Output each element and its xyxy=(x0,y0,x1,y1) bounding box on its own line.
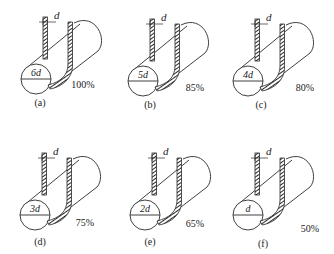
rope-left-strand xyxy=(150,19,155,61)
rope-right-strand xyxy=(260,24,285,91)
rope-bending-diagram: d6d100%(a) d5d85%(b) xyxy=(0,0,334,254)
rope-right-strand xyxy=(48,22,73,89)
rope-diameter-label: d xyxy=(53,145,59,157)
panel-caption-b: (b) xyxy=(144,99,156,111)
rope-right-strand xyxy=(47,158,72,225)
rope-diameter-label: d xyxy=(163,145,169,157)
cylinder-diameter-label: 6d xyxy=(31,67,42,78)
rope-left-strand xyxy=(42,153,47,195)
cylinder-diameter-label: 2d xyxy=(140,203,151,214)
rope-diameter-label: d xyxy=(54,9,60,21)
efficiency-label-b: 85% xyxy=(186,82,204,93)
efficiency-label-f: 50% xyxy=(301,223,319,234)
panel-caption-e: (e) xyxy=(144,236,155,248)
panel-f: dd xyxy=(233,145,314,230)
efficiency-label-e: 65% xyxy=(186,218,204,229)
rope-right-strand xyxy=(260,158,285,225)
rope-diameter-label: d xyxy=(161,11,167,23)
rope-left-strand xyxy=(152,153,157,195)
rope-diameter-label: d xyxy=(266,145,272,157)
efficiency-label-d: 75% xyxy=(76,217,94,228)
panel-caption-f: (f) xyxy=(258,238,268,250)
cylinder-diameter-label: 4d xyxy=(243,69,254,80)
rope-right-strand xyxy=(157,158,182,225)
panel-caption-c: (c) xyxy=(255,99,266,111)
rope-diameter-label: d xyxy=(266,11,272,23)
cylinder-diameter-label: 5d xyxy=(138,69,149,80)
rope-right-strand xyxy=(155,24,180,91)
panel-caption-a: (a) xyxy=(34,97,45,109)
rope-left-strand xyxy=(255,153,260,195)
cylinder-diameter-label: 3d xyxy=(29,203,41,214)
efficiency-label-a: 100% xyxy=(71,79,94,90)
panel-caption-d: (d) xyxy=(34,236,46,248)
diagram-canvas: d6d100%(a) d5d85%(b) xyxy=(0,0,334,254)
rope-left-strand xyxy=(43,17,48,59)
rope-left-strand xyxy=(255,19,260,61)
efficiency-label-c: 80% xyxy=(296,82,314,93)
